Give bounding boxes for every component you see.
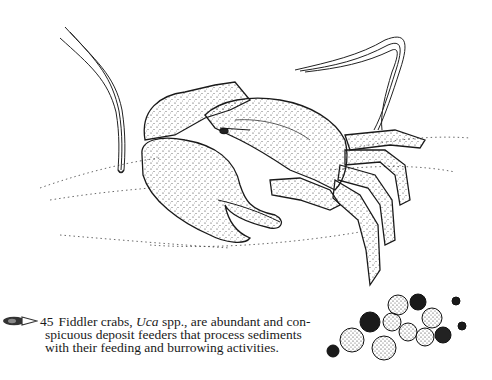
seagrass-blade-left [60, 27, 125, 173]
caption-line-3: with their feeding and burrowing activit… [2, 341, 322, 354]
feeding-pellets [327, 294, 466, 360]
figure-caption: 45Fiddler crabs, Uca spp., are abundant … [2, 315, 322, 354]
eye-pointer-icon [2, 316, 38, 326]
